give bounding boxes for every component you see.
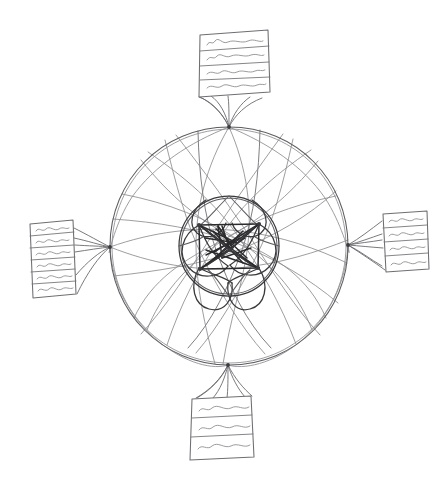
- south-node-dot: [226, 363, 230, 367]
- card-north[interactable]: [199, 30, 270, 97]
- card-east[interactable]: [383, 211, 429, 272]
- north-node-dot: [227, 125, 231, 129]
- sketch-canvas: Pencil sketch of two concentric circles …: [0, 0, 440, 487]
- west-node-dot: [108, 245, 112, 249]
- network-sketch-drawing: [0, 0, 440, 487]
- east-node-dot: [346, 243, 350, 247]
- card-south[interactable]: [190, 396, 254, 460]
- card-west[interactable]: [30, 220, 76, 298]
